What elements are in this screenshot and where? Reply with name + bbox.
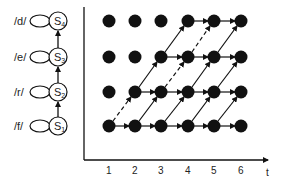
- state-s4: S4 /d/: [14, 12, 67, 30]
- tick-label: 4: [185, 165, 191, 176]
- phoneme-label: /e/: [14, 51, 27, 63]
- self-loop-icon: [30, 86, 50, 98]
- tick-label: 5: [211, 165, 217, 176]
- self-loop-icon: [30, 15, 50, 27]
- state-s1: S1 /f/: [14, 117, 67, 135]
- trellis-edges: [113, 21, 237, 126]
- tick-label: 6: [238, 165, 244, 176]
- x-axis-label: t: [266, 167, 269, 178]
- phoneme-label: /d/: [14, 15, 27, 27]
- state-s3: S3 /e/: [14, 48, 67, 66]
- tick-label: 2: [132, 165, 138, 176]
- tick-label: 1: [106, 165, 112, 176]
- phoneme-label: /f/: [14, 120, 24, 132]
- tick-label: 3: [158, 165, 164, 176]
- self-loop-icon: [30, 51, 50, 63]
- phoneme-label: /r/: [14, 86, 25, 98]
- state-s2: S2 /r/: [14, 83, 67, 101]
- state-chain: S1 /f/ S2 /r/ S3 /e/ S4 /d/: [14, 12, 67, 135]
- self-loop-icon: [30, 120, 50, 132]
- hmm-trellis-diagram: S1 /f/ S2 /r/ S3 /e/ S4 /d/ 1 2 3: [0, 0, 283, 184]
